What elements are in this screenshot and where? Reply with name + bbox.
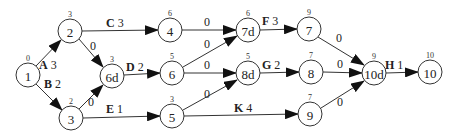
svg-text:7d: 7d — [242, 24, 256, 39]
edge-label-dummy-5-8d: 0 — [204, 87, 210, 101]
network-diagram: A 3 B 2 C 3 0 0 D 2 E 1 0 0 — [0, 0, 457, 136]
node-7: 7 9 — [297, 8, 321, 41]
node-8d: 8d 5 — [236, 52, 260, 85]
svg-text:6: 6 — [246, 9, 250, 18]
svg-text:9: 9 — [372, 52, 376, 61]
edge-label-C: C 3 — [106, 16, 124, 30]
edge-label-dummy-7-10d: 0 — [336, 31, 342, 45]
edge-label-dummy-6-7d: 0 — [204, 37, 210, 51]
svg-text:2: 2 — [67, 25, 74, 40]
svg-text:8: 8 — [308, 66, 315, 81]
edge-G — [260, 72, 299, 73]
edge-label-dummy-9-10d: 0 — [337, 95, 343, 109]
svg-text:9: 9 — [307, 108, 314, 123]
svg-text:3: 3 — [68, 10, 72, 19]
svg-text:10: 10 — [424, 66, 437, 81]
edge-label-dummy-6-8d: 0 — [204, 58, 210, 72]
svg-text:6: 6 — [168, 9, 172, 18]
edge-label-dummy-8-10d: 0 — [337, 57, 343, 71]
edge-C — [82, 30, 158, 31]
svg-text:10d: 10d — [364, 67, 384, 82]
node-7d: 7d 6 — [236, 9, 260, 42]
node-4: 4 6 — [158, 9, 182, 42]
edge-label-K: K 4 — [234, 101, 252, 115]
node-8: 8 7 — [299, 51, 323, 84]
edge-H — [386, 72, 418, 73]
edge-label-B: B 2 — [44, 77, 61, 91]
svg-text:3: 3 — [110, 55, 114, 64]
svg-text:10: 10 — [426, 51, 434, 60]
node-10: 10 10 — [418, 51, 442, 84]
svg-text:7: 7 — [306, 23, 313, 38]
svg-text:0: 0 — [26, 54, 30, 63]
node-10d: 10d 9 — [362, 52, 386, 85]
edge-label-D: D 2 — [126, 60, 144, 74]
svg-text:6: 6 — [169, 67, 176, 82]
node-9: 9 7 — [298, 93, 322, 126]
svg-text:3: 3 — [170, 95, 174, 104]
edges: A 3 B 2 C 3 0 0 D 2 E 1 0 0 — [36, 14, 418, 118]
edge-label-dummy-4-7d: 0 — [204, 15, 210, 29]
edge-dummy-5-8d — [183, 80, 237, 110]
edge-label-F: F 3 — [262, 14, 278, 28]
nodes: 1 0 2 3 3 2 6d 3 4 6 6 5 5 — [16, 8, 442, 130]
node-5: 5 3 — [160, 95, 184, 128]
svg-text:7: 7 — [308, 93, 312, 102]
svg-text:5: 5 — [170, 52, 174, 61]
node-2: 2 3 — [58, 10, 82, 43]
node-3: 3 2 — [59, 97, 83, 130]
svg-text:8d: 8d — [242, 67, 256, 82]
edge-dummy-6-7d — [183, 36, 237, 67]
edge-label-dummy-3-6d: 0 — [88, 95, 94, 109]
edge-dummy-8-10d — [323, 72, 362, 73]
svg-text:2: 2 — [69, 97, 73, 106]
edge-label-G: G 2 — [262, 58, 280, 72]
svg-text:4: 4 — [167, 24, 174, 39]
edge-label-A: A 3 — [39, 58, 57, 72]
svg-text:7: 7 — [309, 51, 313, 60]
edge-label-dummy-2-6d: 0 — [90, 39, 96, 53]
svg-text:9: 9 — [307, 8, 311, 17]
svg-text:5: 5 — [169, 110, 176, 125]
node-1: 1 0 — [16, 54, 40, 87]
svg-text:3: 3 — [68, 112, 75, 127]
edge-F — [260, 29, 297, 30]
svg-text:1: 1 — [25, 69, 32, 84]
edge-label-H: H 1 — [385, 58, 403, 72]
edge-E — [83, 116, 160, 118]
node-6d: 6d 3 — [100, 55, 124, 88]
edge-label-E: E 1 — [106, 102, 123, 116]
svg-text:5: 5 — [246, 52, 250, 61]
node-6: 6 5 — [160, 52, 184, 85]
svg-text:6d: 6d — [106, 70, 120, 85]
